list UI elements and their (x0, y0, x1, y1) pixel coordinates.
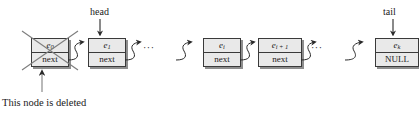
next-pointer-into-ek (345, 42, 362, 60)
next-pointer-into-ei (176, 42, 191, 60)
next-pointer-ei-plus-1-to-ellipsis (301, 42, 315, 60)
next-pointer-e0-to-e1 (68, 42, 83, 60)
linked-list-diagram: e0 next e1 next ei next ei + 1 next ek N… (0, 0, 419, 115)
deleted-node-strikethrough (22, 31, 78, 70)
next-pointer-ei-to-ei-plus-1 (240, 42, 254, 60)
next-pointer-e1-to-ellipsis (125, 42, 140, 60)
diagram-vector-layer (0, 0, 419, 115)
